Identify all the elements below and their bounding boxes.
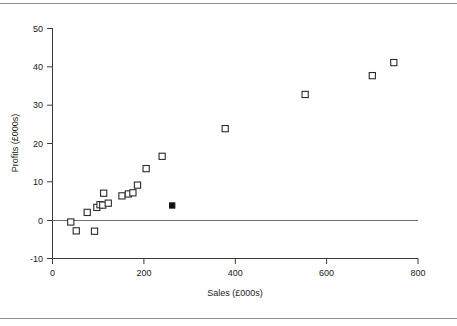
x-tick-label-800: 800	[410, 268, 425, 278]
data-point-layer	[68, 59, 397, 234]
data-point	[391, 59, 397, 65]
y-tick-label-10: 10	[33, 177, 43, 187]
x-axis-title: Sales (£000s)	[207, 288, 263, 298]
data-point	[159, 153, 165, 159]
x-tick-label-600: 600	[319, 268, 334, 278]
y-axis-title: Profits (£000s)	[10, 114, 20, 173]
x-tick-label-0: 0	[50, 268, 55, 278]
scatter-chart-figure: 50 40 30 20 10 0 -10 0 200 400 600 800 S…	[0, 0, 457, 326]
x-axis-ticks	[53, 259, 419, 265]
y-axis-ticks	[47, 29, 53, 259]
y-tick-label-50: 50	[33, 24, 43, 34]
x-tick-label-400: 400	[228, 268, 243, 278]
data-point	[101, 190, 107, 196]
data-point	[369, 73, 375, 79]
data-point	[73, 228, 79, 234]
data-point	[302, 91, 308, 97]
y-tick-label-20: 20	[33, 139, 43, 149]
data-point	[84, 209, 90, 215]
x-tick-label-200: 200	[136, 268, 151, 278]
plot-canvas: 50 40 30 20 10 0 -10 0 200 400 600 800 S…	[0, 0, 457, 326]
y-tick-label-0: 0	[38, 216, 43, 226]
y-tick-label-40: 40	[33, 62, 43, 72]
y-tick-label-minus10: -10	[30, 254, 43, 264]
data-point	[222, 126, 228, 132]
y-tick-label-30: 30	[33, 100, 43, 110]
data-point	[91, 228, 97, 234]
data-point	[130, 190, 136, 196]
data-point	[134, 182, 140, 188]
data-point	[68, 219, 74, 225]
data-point	[105, 200, 111, 206]
data-point	[119, 193, 125, 199]
data-point	[143, 166, 149, 172]
data-point-highlighted	[170, 203, 175, 208]
